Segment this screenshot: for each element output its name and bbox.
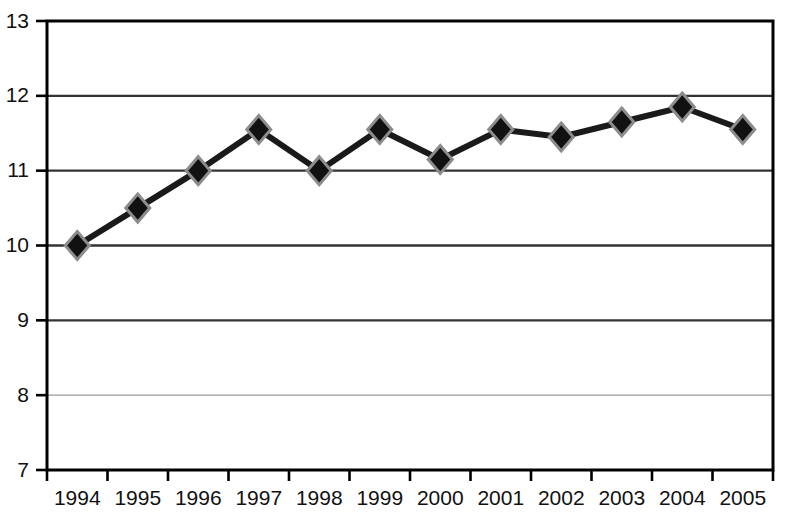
line-chart: 13121110987 1994199519961997199819992000… [0, 0, 787, 516]
x-tick-label-1996: 1996 [175, 486, 222, 509]
chart-canvas: 13121110987 1994199519961997199819992000… [0, 0, 787, 516]
x-tick-label-2003: 2003 [598, 486, 645, 509]
y-tick-label-10: 10 [6, 233, 29, 256]
chart-background [0, 0, 787, 516]
y-tick-label-9: 9 [17, 308, 29, 331]
x-tick-label-1995: 1995 [114, 486, 161, 509]
y-tick-label-13: 13 [6, 9, 29, 32]
y-tick-label-7: 7 [17, 458, 29, 481]
x-tick-label-2004: 2004 [659, 486, 706, 509]
x-tick-label-1999: 1999 [356, 486, 403, 509]
y-tick-label-11: 11 [7, 158, 29, 181]
x-tick-label-1998: 1998 [296, 486, 343, 509]
x-tick-label-1997: 1997 [235, 486, 282, 509]
x-tick-label-2001: 2001 [477, 486, 524, 509]
y-tick-label-8: 8 [17, 383, 29, 406]
y-tick-label-12: 12 [6, 83, 29, 106]
x-tick-label-2000: 2000 [417, 486, 464, 509]
x-tick-label-2002: 2002 [538, 486, 585, 509]
x-tick-label-1994: 1994 [54, 486, 101, 509]
x-tick-label-2005: 2005 [719, 486, 766, 509]
